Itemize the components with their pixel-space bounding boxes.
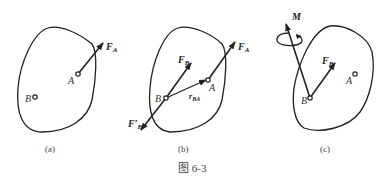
label-FA: FA: [237, 41, 250, 54]
label-A: A: [208, 82, 216, 93]
point-B: [33, 95, 37, 99]
label-B: B: [25, 93, 31, 104]
label-B: B: [301, 95, 307, 106]
label-FB: FB: [177, 54, 190, 67]
label-FB-prime: F′B: [127, 118, 142, 131]
label-rBA: rBA: [189, 92, 200, 102]
panel-c: M B A FB (c): [277, 11, 373, 154]
figure-6-3: A B FA (a) A B FA FB F′B rBA (b) 图 6-3 M…: [0, 0, 385, 182]
panel-b: A B FA FB F′B rBA (b) 图 6-3: [127, 27, 250, 174]
point-A: [76, 72, 80, 76]
point-B: [308, 96, 312, 100]
panel-label-a: (a): [45, 144, 55, 154]
force-arrow-FB: [310, 63, 335, 98]
rigid-body-outline: [18, 27, 96, 132]
panel-a: A B FA (a): [18, 27, 118, 154]
panel-label-b: (b): [178, 144, 189, 154]
panel-label-c: (c): [320, 144, 330, 154]
point-A: [353, 72, 357, 76]
label-B: B: [155, 93, 161, 104]
label-FA: FA: [105, 41, 118, 54]
point-B: [164, 96, 168, 100]
force-arrow-FA: [78, 43, 103, 74]
label-M: M: [291, 11, 302, 22]
rigid-body-outline: [293, 26, 373, 131]
label-A: A: [345, 75, 353, 86]
label-A: A: [67, 75, 75, 86]
figure-caption: 图 6-3: [178, 162, 207, 174]
label-FB: FB: [321, 55, 334, 68]
force-arrow-FB-prime: [141, 98, 166, 130]
rigid-body-outline: [150, 27, 226, 132]
force-arrow-FA: [208, 42, 235, 80]
